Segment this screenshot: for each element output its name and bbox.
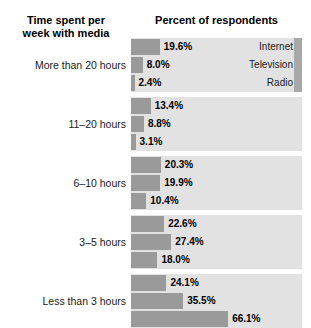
bar-internet (131, 216, 164, 232)
bar-radio (131, 134, 136, 150)
bar-value-label: 10.4% (150, 194, 178, 208)
category-label: Less than 3 hours (0, 295, 126, 307)
bar-row: 3.1% (131, 133, 302, 151)
bar-group: Less than 3 hours24.1%35.5%66.1% (0, 274, 311, 328)
left-column-header: Time spent per week with media (6, 14, 126, 40)
bar-group: 6–10 hours20.3%19.9%10.4% (0, 156, 311, 210)
bar-row: 8.8% (131, 115, 302, 133)
bar-row: 19.9% (131, 174, 302, 192)
bar-group: 11–20 hours13.4%8.8%3.1% (0, 97, 311, 151)
bar-value-label: 20.3% (165, 158, 193, 172)
bar-value-label: 22.6% (168, 217, 196, 231)
plot-panel: 19.6%Internet8.0%Television2.4%Radio (131, 38, 302, 92)
bar-group: 3–5 hours22.6%27.4%18.0% (0, 215, 311, 269)
category-label: 11–20 hours (0, 118, 126, 130)
bar-value-label: 35.5% (187, 294, 215, 308)
bar-television (131, 57, 143, 73)
plot-panel: 24.1%35.5%66.1% (131, 274, 302, 328)
plot-panel: 13.4%8.8%3.1% (131, 97, 302, 151)
bar-value-label: 2.4% (139, 76, 162, 90)
bar-radio (131, 311, 228, 327)
bar-value-label: 8.0% (147, 58, 170, 72)
bar-row: 8.0%Television (131, 56, 302, 74)
legend-label-internet: Internet (259, 40, 293, 54)
bar-value-label: 13.4% (155, 99, 183, 113)
bar-row: 20.3% (131, 156, 302, 174)
bar-row: 13.4% (131, 97, 302, 115)
bar-row: 18.0% (131, 251, 302, 269)
bar-radio (131, 193, 146, 209)
bar-value-label: 19.9% (164, 176, 192, 190)
bar-value-label: 27.4% (175, 235, 203, 249)
bar-group: More than 20 hours19.6%Internet8.0%Telev… (0, 38, 311, 92)
bar-radio (131, 75, 135, 91)
bar-row: 27.4% (131, 233, 302, 251)
panel-edge-shading (294, 38, 302, 92)
bar-row: 2.4%Radio (131, 74, 302, 92)
bar-television (131, 175, 160, 191)
legend-label-television: Television (249, 58, 293, 72)
bar-television (131, 234, 171, 250)
bar-value-label: 24.1% (170, 276, 198, 290)
category-label: More than 20 hours (0, 59, 126, 71)
bar-row: 24.1% (131, 274, 302, 292)
plot-panel: 22.6%27.4%18.0% (131, 215, 302, 269)
bar-row: 66.1% (131, 310, 302, 328)
legend-label-radio: Radio (267, 76, 293, 90)
bar-television (131, 293, 183, 309)
bar-internet (131, 275, 166, 291)
bar-row: 22.6% (131, 215, 302, 233)
bar-value-label: 3.1% (140, 135, 163, 149)
bar-row: 10.4% (131, 192, 302, 210)
left-column-header-line1: Time spent per (27, 14, 105, 26)
category-label: 6–10 hours (0, 177, 126, 189)
bar-value-label: 66.1% (232, 312, 260, 326)
chart-title: Percent of respondents (131, 14, 302, 27)
bar-television (131, 116, 144, 132)
bar-radio (131, 252, 157, 268)
bar-internet (131, 157, 161, 173)
bar-row: 19.6%Internet (131, 38, 302, 56)
bar-value-label: 8.8% (148, 117, 171, 131)
bar-row: 35.5% (131, 292, 302, 310)
category-label: 3–5 hours (0, 236, 126, 248)
bar-internet (131, 98, 151, 114)
bar-internet (131, 39, 160, 55)
bar-value-label: 18.0% (161, 253, 189, 267)
bar-value-label: 19.6% (164, 40, 192, 54)
plot-panel: 20.3%19.9%10.4% (131, 156, 302, 210)
